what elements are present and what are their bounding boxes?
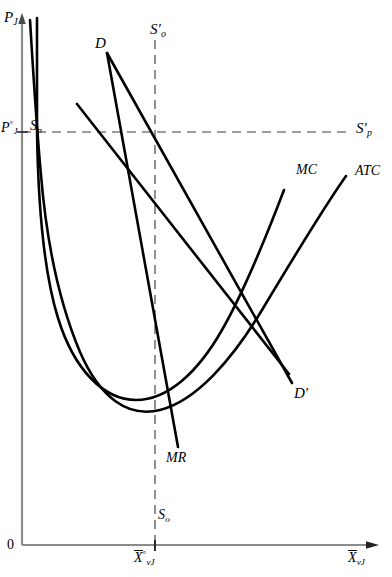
x-axis-arrow (366, 541, 379, 548)
quantity-supply-sub: o (165, 514, 170, 524)
price-level-sub: J (13, 126, 17, 136)
supply-right-base: S (356, 120, 364, 136)
demand-curve (107, 53, 292, 383)
supply-top-label: S′o (150, 22, 166, 39)
supply-left-label: Sp (30, 119, 42, 135)
mr-label: MR (166, 451, 186, 465)
price-level-label: P°J (1, 120, 18, 136)
price-level-base: P (1, 120, 10, 135)
supply-right-sub: p (367, 127, 372, 138)
mr-curve (107, 53, 178, 447)
y-axis-label-base: P (4, 9, 13, 25)
supply-top-base: S (150, 21, 158, 37)
supply-right-label: S′p (356, 121, 372, 138)
origin-label: 0 (7, 538, 14, 552)
quantity-supply-label: So (158, 508, 170, 524)
demand-prime-label: D′ (294, 386, 308, 401)
quantity-tick-sub: vJ (146, 557, 154, 567)
atc-label: ATC (355, 164, 380, 178)
demand-prime-curve (77, 104, 289, 374)
atc-curve (30, 20, 346, 412)
economics-diagram: PJ 0 P°J Sp S′o S′p D D′ MR MC ATC So X°… (0, 0, 392, 577)
y-axis-label: PJ (4, 10, 18, 27)
supply-left-sub: p (37, 125, 42, 135)
x-axis-label: XvJ (348, 550, 365, 567)
supply-top-sub: o (161, 28, 166, 39)
curves-group (30, 18, 346, 447)
y-axis-arrow (18, 13, 26, 24)
mc-label: MC (296, 163, 317, 177)
plot-canvas (0, 0, 392, 577)
axis-group (18, 13, 379, 549)
demand-label: D (95, 36, 106, 51)
y-axis-label-sub: J (13, 16, 17, 27)
x-axis-label-base: X (348, 550, 357, 565)
quantity-supply-base: S (158, 507, 165, 522)
quantity-tick-base: X (134, 550, 143, 565)
x-axis-label-sub: vJ (357, 557, 365, 567)
supply-left-base: S (30, 118, 37, 133)
guide-lines (17, 40, 352, 551)
quantity-tick-label: X°vJ (134, 550, 155, 567)
